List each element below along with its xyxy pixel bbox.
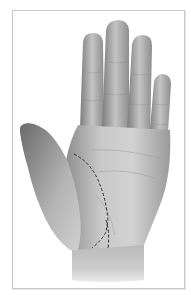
middle-finger <box>102 20 129 130</box>
ring-finger <box>127 35 152 138</box>
index-finger <box>80 33 104 130</box>
palm-illustration <box>0 0 191 295</box>
